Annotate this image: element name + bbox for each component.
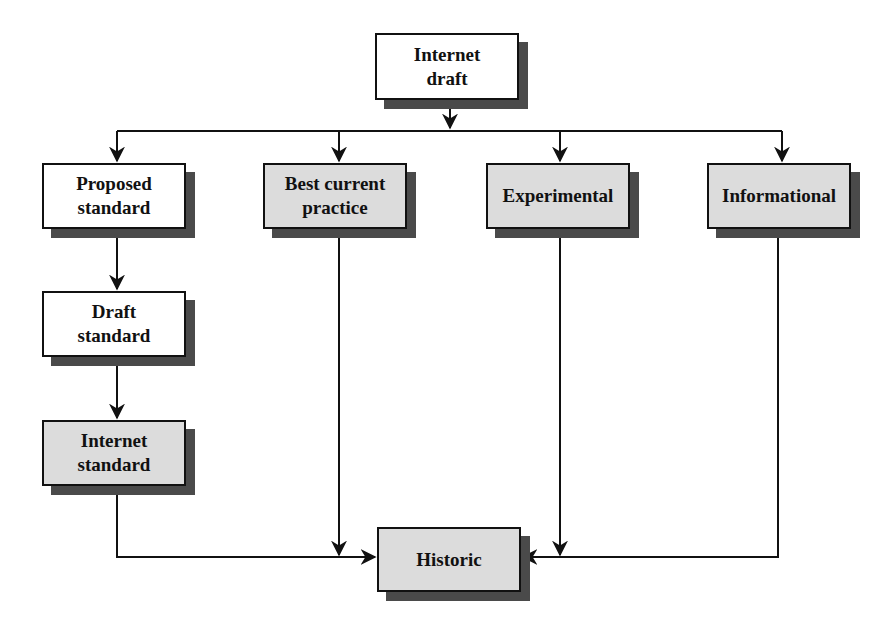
node-label: Internet bbox=[81, 429, 147, 453]
node-label: Experimental bbox=[503, 184, 614, 208]
node-label: Internet bbox=[414, 43, 480, 67]
node-label: practice bbox=[302, 196, 367, 220]
node-label: draft bbox=[426, 67, 467, 91]
node-label: Historic bbox=[416, 548, 481, 572]
node-informational: Informational bbox=[707, 163, 851, 229]
node-historic: Historic bbox=[377, 527, 521, 592]
node-best-current-practice: Best current practice bbox=[263, 163, 407, 229]
node-label: Best current bbox=[285, 172, 385, 196]
node-internet-standard: Internet standard bbox=[42, 420, 186, 486]
node-label: Draft bbox=[92, 300, 136, 324]
node-label: Informational bbox=[722, 184, 836, 208]
node-experimental: Experimental bbox=[486, 163, 630, 229]
node-label: standard bbox=[78, 453, 151, 477]
node-draft-standard: Draft standard bbox=[42, 291, 186, 357]
node-label: standard bbox=[78, 324, 151, 348]
node-label: standard bbox=[78, 196, 151, 220]
node-internet-draft: Internet draft bbox=[375, 33, 519, 100]
node-label: Proposed bbox=[76, 172, 152, 196]
node-proposed-standard: Proposed standard bbox=[42, 163, 186, 229]
